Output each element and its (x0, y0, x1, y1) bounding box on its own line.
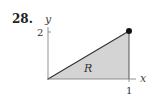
point-marker (126, 28, 132, 34)
region-label: R (83, 62, 92, 75)
y-tick-label: 2 (37, 27, 43, 38)
figure: 28. y 2 x 1 R (0, 0, 153, 107)
x-tick-label: 1 (126, 85, 132, 96)
y-axis-label: y (44, 13, 52, 26)
x-axis-label: x (140, 72, 147, 85)
problem-number: 28. (12, 12, 33, 26)
